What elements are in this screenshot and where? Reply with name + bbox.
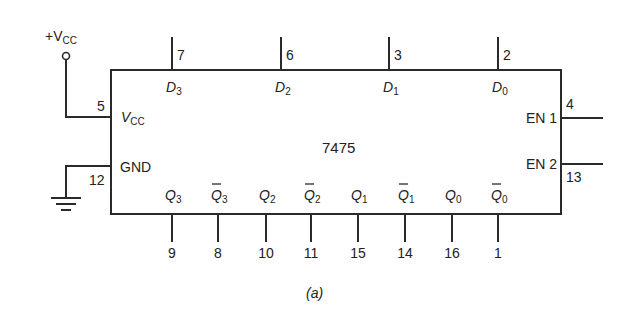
inverted-output-pin: Q38 [211, 184, 228, 261]
pin-number: 15 [350, 245, 366, 261]
ground-symbol-icon [52, 198, 80, 210]
pin-number: 7 [177, 47, 185, 63]
pin-number: 1 [494, 245, 502, 261]
output-pin: Q016 [444, 187, 462, 261]
output-pin: Q210 [258, 187, 276, 261]
inverted-output-pin: Q114 [397, 184, 415, 261]
pin-number: 8 [214, 245, 222, 261]
pin-number: 6 [286, 47, 294, 63]
ic-7475-pinout-diagram: +VCC 5 12 7475 VCC GND 7D36D23D12D0 EN 1… [0, 0, 633, 322]
pin-number: 10 [258, 245, 274, 261]
pin-number: 9 [168, 245, 176, 261]
vcc-terminal-icon [63, 53, 70, 60]
vcc-supply: +VCC 5 [45, 28, 111, 117]
pin-number: 14 [397, 245, 413, 261]
pin-number: 4 [566, 96, 574, 112]
inverted-output-pin: Q01 [491, 184, 508, 261]
vcc-supply-label: +VCC [45, 28, 77, 46]
figure-caption: (a) [306, 285, 323, 301]
chip-part-number: 7475 [322, 139, 355, 156]
pin-label: EN 2 [526, 156, 557, 172]
gnd-pin-number: 12 [89, 172, 105, 188]
gnd-pin-label: GND [120, 159, 151, 175]
pin-number: 2 [503, 47, 511, 63]
pin-label: EN 1 [526, 110, 557, 126]
output-pin: Q115 [350, 187, 368, 261]
pin-number: 3 [394, 47, 402, 63]
pin-number: 11 [304, 245, 319, 261]
output-pin: Q39 [165, 187, 182, 261]
pin-number: 13 [566, 169, 582, 185]
vcc-pin-number: 5 [97, 98, 105, 114]
pin-number: 16 [444, 245, 460, 261]
ground: 12 [52, 166, 111, 210]
inverted-output-pin: Q211 [304, 184, 321, 261]
